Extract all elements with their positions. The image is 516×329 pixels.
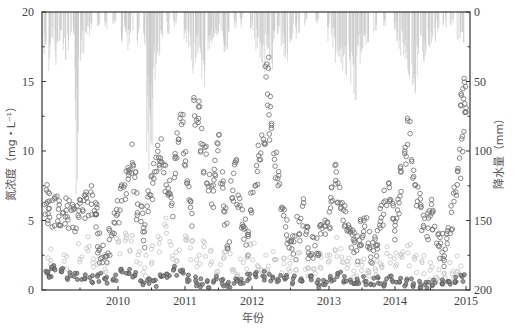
data-point	[292, 274, 296, 278]
data-point	[145, 204, 150, 209]
data-point	[45, 183, 50, 188]
data-point	[339, 246, 343, 250]
data-point	[164, 231, 168, 235]
y2-tick-label: 0	[474, 5, 480, 19]
data-point	[245, 279, 249, 283]
data-point	[72, 274, 76, 278]
data-point	[111, 277, 115, 281]
data-point	[205, 279, 209, 283]
data-point	[64, 196, 69, 201]
data-point	[66, 226, 71, 231]
data-point	[90, 274, 94, 278]
data-point	[409, 277, 413, 281]
data-point	[404, 162, 409, 167]
data-point	[341, 218, 346, 223]
data-point	[140, 211, 145, 216]
data-point	[291, 252, 296, 257]
data-point	[212, 279, 216, 283]
data-point	[228, 285, 232, 289]
y-tick-label: 10	[22, 144, 34, 158]
data-point	[227, 240, 232, 245]
plot-frame	[42, 12, 470, 290]
data-point	[147, 281, 151, 285]
data-point	[198, 262, 202, 266]
data-point	[262, 269, 266, 273]
data-point	[443, 247, 448, 252]
data-point	[368, 255, 373, 260]
data-point	[171, 214, 176, 219]
data-point	[167, 178, 172, 183]
data-point	[397, 280, 401, 284]
data-point	[253, 272, 257, 276]
data-point	[375, 228, 380, 233]
data-point	[301, 224, 306, 229]
data-point	[95, 205, 100, 210]
data-point	[459, 264, 463, 268]
data-point	[288, 255, 292, 259]
data-point	[86, 235, 90, 239]
data-point	[266, 55, 271, 60]
data-point	[445, 241, 450, 246]
data-point	[411, 176, 416, 181]
data-point	[388, 254, 392, 258]
data-point	[118, 208, 123, 213]
data-point	[124, 192, 129, 197]
data-point	[385, 245, 389, 249]
data-point	[427, 280, 431, 284]
data-point	[218, 262, 222, 266]
data-point	[364, 279, 368, 283]
data-point	[318, 232, 323, 237]
data-point	[199, 126, 204, 131]
data-point	[285, 218, 290, 223]
data-point	[352, 269, 356, 273]
data-point	[53, 268, 57, 272]
data-point	[127, 272, 131, 276]
data-point	[66, 218, 71, 223]
data-point	[172, 264, 176, 268]
data-point	[157, 250, 161, 254]
data-point	[440, 282, 444, 286]
data-point	[204, 152, 209, 157]
data-point	[238, 257, 242, 261]
data-point	[306, 246, 311, 251]
chart: 05101520 050100150200 201020112012201320…	[0, 0, 516, 329]
data-point	[130, 142, 135, 147]
data-point	[298, 279, 302, 283]
data-point	[451, 269, 455, 273]
data-point	[263, 275, 267, 279]
data-point	[378, 226, 383, 231]
data-point	[463, 101, 468, 106]
data-point	[165, 276, 169, 280]
data-point	[405, 279, 409, 283]
data-point	[197, 99, 202, 104]
data-point	[285, 275, 289, 279]
data-point	[155, 149, 160, 154]
data-point	[190, 224, 195, 229]
data-point	[151, 161, 156, 166]
data-point	[212, 167, 217, 172]
data-point	[367, 274, 371, 278]
data-point	[107, 237, 112, 242]
data-point	[374, 254, 379, 259]
data-point	[264, 75, 269, 80]
data-point	[175, 273, 179, 277]
data-point	[254, 163, 259, 168]
data-point	[91, 257, 95, 261]
data-point	[199, 277, 203, 281]
data-point	[75, 278, 79, 282]
data-point	[47, 276, 51, 280]
data-point	[328, 274, 332, 278]
data-point	[188, 205, 193, 210]
x-tick-label: 2010	[106, 294, 130, 308]
data-point	[67, 198, 72, 203]
data-point	[62, 259, 66, 263]
y2-axis-title: 降水量（mm）	[492, 113, 506, 189]
data-point	[437, 268, 441, 272]
data-point	[174, 250, 178, 254]
data-point	[379, 203, 384, 208]
data-point	[267, 272, 271, 276]
data-point	[187, 278, 191, 282]
data-point	[146, 209, 151, 214]
data-point	[269, 126, 274, 131]
data-point	[155, 143, 160, 148]
